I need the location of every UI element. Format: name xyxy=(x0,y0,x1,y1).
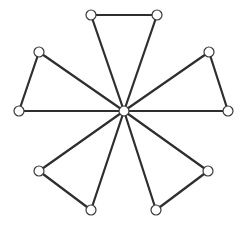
node-b4 xyxy=(34,166,44,176)
edge-c-b2 xyxy=(124,111,156,210)
node-l1 xyxy=(14,106,24,116)
edge-c-l2 xyxy=(39,52,124,111)
node-l2 xyxy=(34,47,44,57)
node-t2 xyxy=(152,10,162,20)
node-b1 xyxy=(203,166,213,176)
node-b2 xyxy=(151,205,161,215)
edge-b3-b4 xyxy=(39,171,91,210)
edge-c-b4 xyxy=(39,111,124,171)
edge-c-b3 xyxy=(91,111,124,210)
edge-l1-l2 xyxy=(19,52,39,111)
edge-c-b1 xyxy=(124,111,208,171)
nodes-group xyxy=(14,10,233,215)
node-r2 xyxy=(223,106,233,116)
node-t1 xyxy=(86,10,96,20)
windmill-graph-diagram xyxy=(0,0,240,228)
node-b3 xyxy=(86,205,96,215)
node-r1 xyxy=(204,47,214,57)
center-node xyxy=(119,106,129,116)
edge-b1-b2 xyxy=(156,171,208,210)
edge-c-t2 xyxy=(124,15,157,111)
edge-c-t1 xyxy=(91,15,124,111)
edge-c-r1 xyxy=(124,52,209,111)
edge-r1-r2 xyxy=(209,52,228,111)
